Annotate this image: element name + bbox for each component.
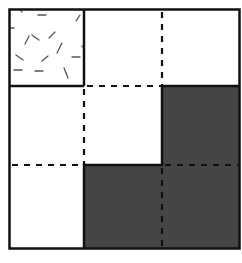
texture-marks bbox=[11, 9, 84, 78]
grid-diagram bbox=[0, 0, 242, 263]
